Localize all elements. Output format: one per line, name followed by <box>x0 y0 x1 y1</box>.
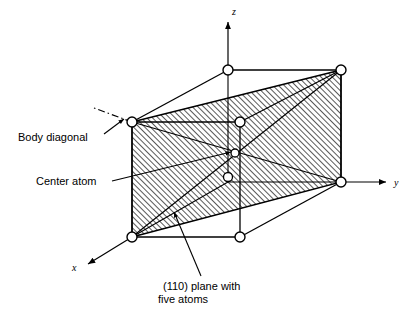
crystal-structure-figure: z y x Body diagonal Center atom (110) pl… <box>0 0 406 318</box>
plane-caption-line-1: (110) plane with <box>163 280 240 292</box>
center-atom-label: Center atom <box>36 175 97 187</box>
z-axis-label: z <box>231 6 236 17</box>
atom-front-bottom-left <box>127 232 137 242</box>
y-axis-label: y <box>393 177 399 188</box>
x-axis-label: x <box>71 262 77 273</box>
atom-body-center <box>231 149 239 157</box>
body-diagonal-extension <box>94 108 132 122</box>
body-diagonal-label: Body diagonal <box>18 131 88 143</box>
atom-back-bottom-right <box>336 177 346 187</box>
body-diagonal-leader <box>104 119 124 134</box>
atom-back-top-left <box>223 65 233 75</box>
atom-back-top-right <box>336 65 346 75</box>
plane-caption-line-2: five atoms <box>158 293 209 305</box>
atom-front-bottom-right <box>235 232 245 242</box>
atom-front-top-left <box>127 117 137 127</box>
diagram-canvas: z y x Body diagonal Center atom (110) pl… <box>0 0 406 318</box>
atom-front-top-right <box>235 117 245 127</box>
x-axis <box>88 237 132 264</box>
atom-center <box>224 173 233 182</box>
